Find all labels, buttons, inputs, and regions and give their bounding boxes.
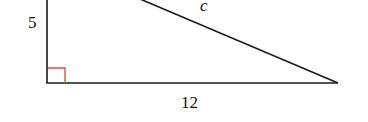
right-triangle-diagram: 5 c 12 bbox=[0, 0, 368, 122]
label-hypotenuse: c bbox=[200, 0, 208, 15]
label-horizontal-leg: 12 bbox=[181, 93, 198, 112]
label-vertical-leg: 5 bbox=[28, 13, 37, 32]
hypotenuse bbox=[140, 0, 338, 83]
right-angle-marker bbox=[48, 68, 65, 83]
